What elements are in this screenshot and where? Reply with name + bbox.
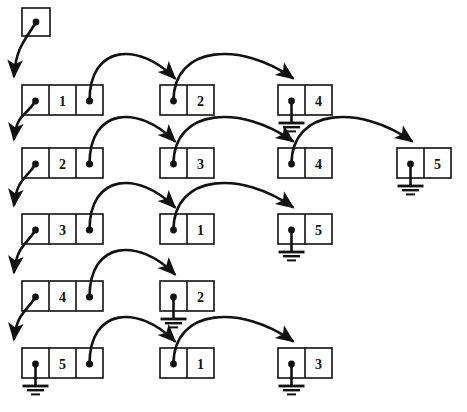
node-value: 4 — [59, 290, 66, 305]
node-2-3: 4 — [278, 148, 332, 178]
node-value: 1 — [197, 223, 204, 238]
node-3-2: 1 — [160, 214, 214, 244]
node-value: 2 — [197, 290, 204, 305]
node-value: 2 — [197, 94, 204, 109]
node-value: 3 — [197, 157, 204, 172]
node-value: 3 — [59, 223, 66, 238]
node-value: 5 — [315, 223, 322, 238]
node-value: 5 — [434, 157, 441, 172]
diagram-canvas: 124234531542513 — [0, 0, 467, 412]
node-value: 1 — [59, 94, 66, 109]
linked-list-diagram: 124234531542513 — [0, 0, 467, 412]
node-1-2: 2 — [160, 85, 214, 115]
node-1-3: 4 — [278, 85, 332, 131]
node-2-2: 3 — [160, 148, 214, 178]
node-3-3: 5 — [278, 214, 332, 260]
node-value: 5 — [59, 357, 66, 372]
node-5-3: 3 — [278, 348, 332, 394]
node-2-4: 5 — [397, 148, 451, 194]
node-value: 1 — [197, 357, 204, 372]
node-value: 2 — [59, 157, 66, 172]
node-5-2: 1 — [160, 348, 214, 378]
node-value: 3 — [315, 357, 322, 372]
node-value: 4 — [315, 157, 322, 172]
node-value: 4 — [315, 94, 322, 109]
